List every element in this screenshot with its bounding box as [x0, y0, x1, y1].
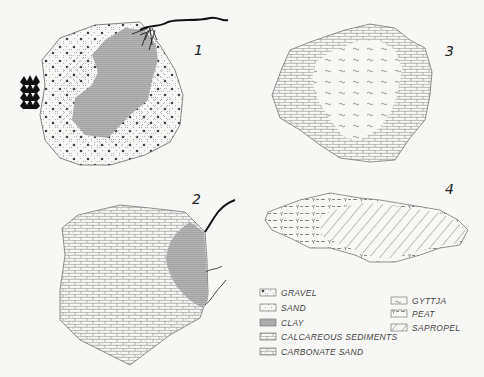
legend-item-gyttja: GYTTJA	[391, 296, 446, 306]
panel-label-4: 4	[445, 181, 454, 197]
legend: GRAVEL SAND CLAY CALCAREOUS SEDIMENTS CA…	[260, 288, 460, 357]
svg-text:CALCAREOUS SEDIMENTS: CALCAREOUS SEDIMENTS	[281, 332, 398, 342]
panel-3: 3	[272, 24, 454, 162]
panel-2: 2	[60, 191, 235, 365]
svg-text:CLAY: CLAY	[281, 318, 305, 328]
panel-label-3: 3	[445, 43, 454, 59]
inflowing-stream-secondary	[206, 266, 222, 272]
lake-sediment-diagram: 1 2 3 4 GRAVEL SAND CLAY	[0, 0, 484, 377]
panel-1: 1	[20, 18, 228, 165]
inflowing-stream-main	[205, 200, 235, 232]
vegetation-icon	[20, 75, 40, 109]
legend-item-gravel: GRAVEL	[260, 288, 317, 298]
svg-text:SAND: SAND	[281, 303, 306, 313]
legend-item-peat: PEAT	[391, 309, 435, 319]
svg-text:CARBONATE SAND: CARBONATE SAND	[281, 347, 363, 357]
panel-4: 4	[265, 181, 468, 262]
legend-item-calcareous-sediments: CALCAREOUS SEDIMENTS	[260, 332, 398, 342]
panel-label-1: 1	[194, 42, 203, 58]
svg-text:GYTTJA: GYTTJA	[412, 296, 446, 306]
inflowing-stream	[140, 18, 228, 30]
svg-text:PEAT: PEAT	[412, 309, 435, 319]
legend-item-sand: SAND	[260, 303, 306, 313]
legend-item-clay: CLAY	[260, 318, 305, 328]
panel-label-2: 2	[192, 191, 201, 207]
legend-item-carbonate-sand: CARBONATE SAND	[260, 347, 363, 357]
legend-item-sapropel: SAPROPEL	[391, 323, 460, 333]
svg-text:GRAVEL: GRAVEL	[281, 288, 317, 298]
svg-text:SAPROPEL: SAPROPEL	[412, 323, 460, 333]
